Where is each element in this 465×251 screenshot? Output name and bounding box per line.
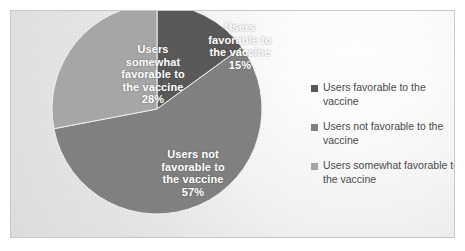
square-marker-icon <box>311 163 318 170</box>
legend-item-somewhat-favorable[interactable]: Users somewhat favorable to the vaccine <box>311 159 455 186</box>
square-marker-icon <box>311 124 318 131</box>
legend-item-not-favorable[interactable]: Users not favorable to the vaccine <box>311 120 455 147</box>
slice-label-not-favorable: Users not favorable to the vaccine 57% <box>141 148 245 198</box>
slice-label-favorable: Users favorable to the vaccine 15% <box>197 21 283 71</box>
slice-label-somewhat: Users somewhat favorable to the vaccine … <box>103 43 203 106</box>
chart-panel: Users favorable to the vaccine 15% Users… <box>10 10 455 238</box>
legend-item-label: Users somewhat favorable to the vaccine <box>323 159 455 186</box>
legend-item-label: Users favorable to the vaccine <box>323 81 455 108</box>
square-marker-icon <box>311 85 318 92</box>
legend-item-label: Users not favorable to the vaccine <box>323 120 455 147</box>
screenshot-root: Users favorable to the vaccine 15% Users… <box>0 0 465 251</box>
chart-legend: Users favorable to the vaccine Users not… <box>311 81 455 198</box>
pie-chart: Users favorable to the vaccine 15% Users… <box>51 10 263 215</box>
legend-item-favorable[interactable]: Users favorable to the vaccine <box>311 81 455 108</box>
